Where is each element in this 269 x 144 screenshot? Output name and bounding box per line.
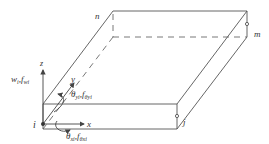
node-n-label: n (95, 11, 100, 21)
theta-x-rotation-arrow (56, 121, 70, 131)
node-i-dot (41, 122, 45, 126)
left-top-edge (43, 11, 113, 104)
node-m-dot (245, 22, 248, 25)
coordinate-axes (43, 70, 84, 131)
y-axis-label: y (70, 74, 75, 84)
node-j-dot (175, 114, 178, 117)
theta-x-label: θxi,fθxi (66, 131, 87, 142)
front-face (43, 104, 177, 129)
x-axis-label: x (86, 119, 91, 129)
w-force-label: wi,fwi (11, 74, 29, 85)
plate-hidden-edges (43, 14, 247, 129)
hidden-left-bottom-edge (43, 37, 113, 129)
theta-y-label: θyi,fθyi (71, 89, 92, 100)
plate-visible-edges (43, 11, 247, 129)
node-m-label: m (254, 29, 261, 39)
z-axis-label: z (39, 59, 44, 68)
node-j-label: j (182, 117, 186, 127)
y-axis-arrow (43, 83, 74, 124)
right-top-edge (177, 11, 247, 104)
right-bottom-edge (177, 37, 247, 129)
node-i-label: i (33, 119, 36, 130)
plate-diagram: n m j i z x y wi,fwi θyi,fθyi θxi,fθxi (0, 0, 269, 144)
